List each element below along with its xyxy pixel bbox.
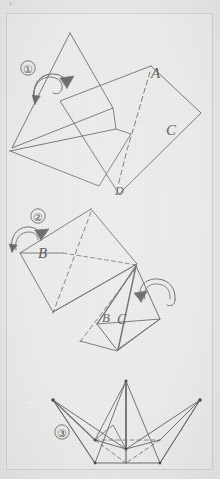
step-marker-1: ①: [21, 61, 35, 75]
step-marker-3: ③: [55, 425, 69, 439]
vertex-labels: A C D B B C: [38, 65, 177, 327]
origami-diagram: ① ② ③ A C D B B C: [0, 0, 220, 479]
step-marker-2: ②: [31, 209, 45, 223]
fold-line-left-horizontal: [63, 253, 137, 265]
vertex-dot-bottom-left: [94, 462, 97, 465]
step-1-figure: [10, 33, 201, 194]
vertex-dot-right: [198, 398, 202, 402]
shape-left-flap-inner: [53, 264, 137, 312]
step-marker-2-label: ②: [33, 211, 43, 223]
scan-speck: [13, 1, 15, 4]
shape-boat-left-inner2: [95, 440, 126, 449]
shape-sliver-upper: [10, 108, 116, 151]
vertex-label-c: C: [166, 122, 177, 138]
vertex-dot-bottom-right: [159, 462, 162, 465]
shape-boat-peak-left-fold: [95, 381, 126, 440]
shape-boat-center-peak-right: [126, 381, 160, 463]
shape-upper-triangle: [12, 33, 113, 148]
vertex-dot-center: [125, 448, 128, 451]
vertex-dot-left: [51, 398, 55, 402]
vertex-label-b-right: B: [102, 310, 110, 325]
step-marker-1-label: ①: [23, 63, 33, 75]
shape-kite-right: [60, 66, 201, 194]
fold-line-left-diagonal: [53, 212, 91, 313]
vertex-label-c-right: C: [117, 312, 127, 327]
shape-boat-center-peak-left: [95, 381, 126, 463]
scan-speck: [9, 2, 12, 6]
fold-arrow-1: [32, 74, 74, 104]
vertex-dot-top: [124, 379, 127, 382]
scanned-page: ① ② ③ A C D B B C: [0, 0, 220, 479]
vertex-label-a: A: [150, 65, 161, 81]
scan-highlight: [28, 402, 34, 404]
vertex-dot-inner-left: [94, 439, 97, 442]
shape-boat-right-fold: [126, 440, 160, 449]
shape-right-flap: [97, 266, 160, 350]
shape-sliver-lower: [10, 129, 131, 186]
fold-arrow-2-right: [134, 279, 175, 306]
step-3-figure: [51, 379, 202, 464]
step-marker-3-label: ③: [57, 427, 67, 439]
fold-line-a-d: [118, 72, 150, 186]
vertex-label-d: D: [114, 184, 124, 198]
shape-boat-right-fold2: [160, 400, 200, 440]
shape-boat-left-arm: [53, 400, 126, 449]
shape-boat-right-edge: [160, 400, 200, 463]
vertex-label-b-left: B: [38, 245, 47, 261]
